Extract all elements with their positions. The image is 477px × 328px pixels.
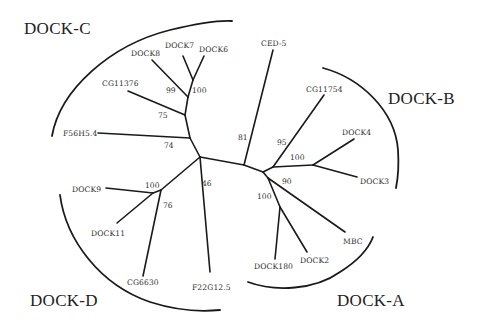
bootstrap-f56h5-4-group: 74 <box>164 141 174 150</box>
branch-dock6 <box>193 56 204 80</box>
leaf-label-cg11376: CG11376 <box>102 79 139 88</box>
branch-center-left <box>200 157 244 165</box>
clade-label-dock-b: DOCK-B <box>388 89 455 108</box>
bootstrap-cg11754-group: 95 <box>277 138 287 147</box>
leaf-label-dock6: DOCK6 <box>199 45 228 54</box>
leaf-label-dock2: DOCK2 <box>300 256 329 265</box>
branch-b-inner <box>273 165 313 167</box>
clade-label-dock-d: DOCK-D <box>30 291 98 310</box>
branch-d-stem <box>161 157 200 190</box>
branch-dock4 <box>313 139 354 165</box>
phylogenetic-tree: DOCK-C DOCK-B DOCK-A DOCK-D DOCK7 DOCK6 … <box>0 0 477 328</box>
bootstrap-dock6-dock7: 100 <box>192 86 207 95</box>
clade-label-dock-c: DOCK-C <box>24 19 91 38</box>
leaf-label-dock4: DOCK4 <box>342 128 371 137</box>
leaf-label-dock180: DOCK180 <box>254 262 293 271</box>
leaf-label-dock8: DOCK8 <box>131 49 160 58</box>
bootstrap-mbc-group: 90 <box>282 177 292 186</box>
clade-label-dock-a: DOCK-A <box>337 291 405 310</box>
leaf-label-dock9: DOCK9 <box>72 185 101 194</box>
leaf-label-ced5: CED-5 <box>261 39 287 48</box>
branch-dock2 <box>280 207 307 252</box>
bootstrap-dock180-dock2: 100 <box>257 192 272 201</box>
leaf-label-f22g12-5: F22G12.5 <box>192 283 231 292</box>
leaf-label-cg11754: CG11754 <box>306 85 343 94</box>
bootstrap-cg11376-group: 75 <box>158 111 168 120</box>
branch-c-inner-2 <box>185 97 188 115</box>
bootstrap-dock8-group: 99 <box>166 86 176 95</box>
branch-f22g12-5 <box>200 157 210 272</box>
leaf-label-dock11: DOCK11 <box>91 229 125 238</box>
clade-arc-dock-c <box>52 21 232 136</box>
branch-cg11376 <box>128 91 185 115</box>
branch-dock11 <box>117 193 153 223</box>
branch-f56h5-4 <box>98 133 190 138</box>
bootstrap-dock9-dock11: 100 <box>145 181 160 190</box>
leaf-label-mbc: MBC <box>343 237 363 246</box>
branch-dock7 <box>183 56 193 80</box>
bootstrap-dock3-dock4: 100 <box>290 153 305 162</box>
branch-ced5 <box>244 50 273 165</box>
branch-c-stem <box>190 138 200 157</box>
branch-center-right <box>244 165 263 172</box>
leaf-label-cg6630: CG6630 <box>127 278 159 287</box>
bootstrap-ced5: 81 <box>238 133 248 142</box>
branch-a-stem <box>263 172 268 178</box>
branch-dock3 <box>313 165 357 177</box>
leaf-label-dock3: DOCK3 <box>360 177 389 186</box>
branch-cg6630 <box>143 190 161 276</box>
branch-b-stem <box>263 167 273 172</box>
branch-c-inner-1 <box>185 115 190 138</box>
leaf-label-f56h5-4: F56H5.4 <box>63 129 97 138</box>
branch-dock180 <box>275 207 280 259</box>
leaf-label-dock7: DOCK7 <box>165 41 194 50</box>
bootstrap-cg6630-group: 76 <box>163 201 173 210</box>
bootstrap-f22g12-5: 46 <box>202 179 212 188</box>
